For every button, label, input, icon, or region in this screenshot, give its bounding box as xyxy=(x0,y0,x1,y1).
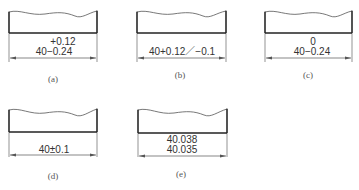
figure-caption: (d) xyxy=(35,171,71,181)
figure-e: 40.038 40.035 (e) xyxy=(120,95,240,190)
figure-caption: (a) xyxy=(35,74,71,84)
figure-caption: (c) xyxy=(290,70,326,80)
figure-caption: (b) xyxy=(162,70,198,80)
dimension-value: 40−0.24 xyxy=(22,47,86,57)
dimension-value: 40±0.1 xyxy=(26,145,82,155)
figure-c: 0 40−0.24 (c) xyxy=(240,0,359,95)
dimension-value: 40−0.24 xyxy=(280,47,344,57)
figure-caption: (e) xyxy=(163,169,199,179)
figure-b: 40+0.12／−0.1 (b) xyxy=(120,0,240,95)
figure-d: 40±0.1 (d) xyxy=(0,95,120,190)
dimension-value: 40+0.12／−0.1 xyxy=(140,47,224,57)
figure-a: +0.12 40−0.24 (a) xyxy=(0,0,120,95)
lower-limit: 40.035 xyxy=(156,145,208,155)
